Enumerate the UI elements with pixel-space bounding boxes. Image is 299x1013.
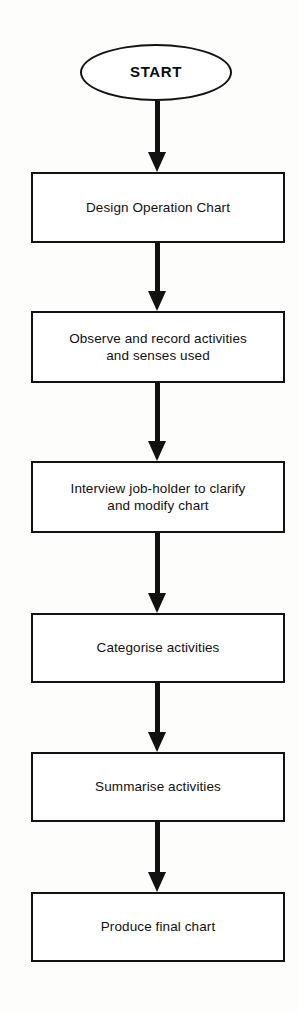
node-summarise-activities-label: Summarise activities: [95, 778, 221, 795]
node-observe-record-activities-label: Observe and record activities and senses…: [69, 330, 247, 365]
node-produce-final-chart-label: Produce final chart: [101, 918, 215, 935]
node-observe-record-activities[interactable]: Observe and record activities and senses…: [31, 311, 285, 383]
arrow-head-icon: [148, 732, 166, 752]
arrow-head-icon: [148, 441, 166, 461]
arrow-head-icon: [148, 593, 166, 613]
node-interview-job-holder-label: Interview job-holder to clarify and modi…: [71, 480, 246, 515]
node-design-operation-chart-label: Design Operation Chart: [86, 199, 230, 216]
node-design-operation-chart[interactable]: Design Operation Chart: [31, 172, 285, 243]
arrow-head-icon: [148, 291, 166, 311]
node-start[interactable]: START: [80, 44, 232, 101]
node-summarise-activities[interactable]: Summarise activities: [31, 752, 285, 822]
arrow-interview-to-categorise: [147, 533, 167, 613]
arrow-head-icon: [148, 872, 166, 892]
node-categorise-activities[interactable]: Categorise activities: [31, 613, 285, 683]
arrow-head-icon: [148, 152, 166, 172]
arrow-summarise-to-produce: [147, 822, 167, 892]
node-categorise-activities-label: Categorise activities: [97, 639, 220, 656]
arrow-shaft: [155, 383, 160, 441]
flowchart-canvas: START Design Operation Chart Observe and…: [0, 0, 299, 1013]
arrow-design-to-observe: [147, 243, 167, 311]
arrow-shaft: [155, 101, 160, 152]
arrow-observe-to-interview: [147, 383, 167, 461]
node-produce-final-chart[interactable]: Produce final chart: [31, 892, 285, 962]
node-interview-job-holder[interactable]: Interview job-holder to clarify and modi…: [31, 461, 285, 533]
arrow-shaft: [155, 683, 160, 732]
arrow-shaft: [155, 822, 160, 872]
arrow-categorise-to-summarise: [147, 683, 167, 752]
arrow-shaft: [155, 533, 160, 593]
node-start-label: START: [130, 64, 182, 81]
arrow-shaft: [155, 243, 160, 291]
arrow-start-to-design: [147, 101, 167, 172]
